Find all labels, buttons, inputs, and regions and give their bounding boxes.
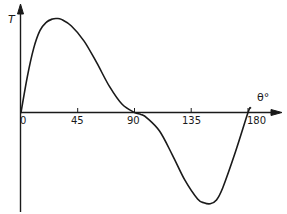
x-tick-label-180: 180 [247, 116, 266, 126]
x-tick-label-0: 0 [20, 116, 26, 126]
x-axis-arrow-icon [271, 110, 282, 116]
x-axis-label: θ° [257, 92, 269, 103]
x-tick-label-45: 45 [71, 116, 84, 126]
data-curve [21, 18, 251, 203]
y-axis-arrow-icon [18, 4, 24, 14]
torque-angle-chart [0, 0, 287, 214]
x-tick-label-135: 135 [182, 116, 201, 126]
x-tick-label-90: 90 [127, 116, 140, 126]
y-axis-label: T [8, 14, 15, 25]
x-axis [20, 108, 282, 116]
